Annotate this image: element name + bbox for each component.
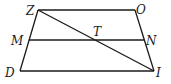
trapezoid-diagram: Z O T M N D I <box>0 0 171 84</box>
label-z: Z <box>25 4 35 18</box>
label-d: D <box>4 66 15 80</box>
diagram-svg: Z O T M N D I <box>0 0 171 84</box>
label-o: O <box>136 3 146 17</box>
label-m: M <box>10 34 24 48</box>
label-i: I <box>155 66 161 80</box>
label-t: T <box>93 25 102 39</box>
label-n: N <box>145 34 157 48</box>
